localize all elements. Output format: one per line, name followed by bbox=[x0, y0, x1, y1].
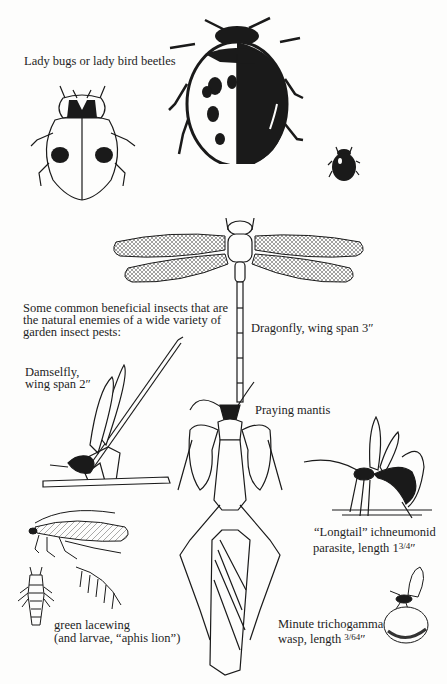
inch-mark: ″ bbox=[360, 632, 365, 646]
lacewing-illustration bbox=[25, 505, 135, 565]
ladybug-large-illustration bbox=[165, 14, 310, 164]
ladybug-outline-illustration bbox=[25, 78, 140, 203]
ichneumonid-length-fraction: 3/4 bbox=[399, 541, 411, 551]
caption-ladybugs: Lady bugs or lady bird beetles bbox=[24, 55, 176, 68]
caption-trichogamma-line1: Minute trichogamma bbox=[278, 618, 383, 631]
trichogamma-illustration bbox=[380, 565, 430, 645]
trichogamma-length-text: wasp, length bbox=[278, 632, 344, 646]
trichogamma-length-fraction: 3/64 bbox=[344, 632, 360, 642]
caption-ichneumonid-line1: “Longtail” ichneumonid bbox=[314, 526, 436, 539]
caption-ichneumonid-line2: parasite, length 13/4″ bbox=[313, 540, 415, 555]
inch-mark: ″ bbox=[410, 541, 415, 555]
caption-trichogamma-line2: wasp, length 3/64″ bbox=[278, 631, 366, 646]
ichneumonid-length-text: parasite, length 1 bbox=[313, 541, 399, 555]
ichneumonid-illustration bbox=[302, 412, 442, 522]
caption-dragonfly: Dragonfly, wing span 3″ bbox=[251, 322, 373, 335]
ladybug-tiny-illustration bbox=[326, 145, 362, 185]
caption-lacewing-line2: (and larvae, “aphis lion”) bbox=[54, 632, 180, 645]
